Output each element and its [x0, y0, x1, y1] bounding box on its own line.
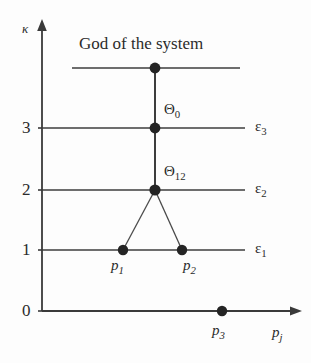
- epsilon-3-sub: 3: [261, 125, 266, 137]
- y-axis-label: κ: [22, 22, 28, 35]
- p3-base: p: [212, 322, 220, 338]
- y-tick-0: 0: [22, 302, 31, 319]
- p1-base: p: [111, 257, 119, 273]
- p2-sub: 2: [191, 264, 196, 276]
- edge-theta12-p1: [123, 190, 155, 250]
- theta-12-sub: 12: [175, 170, 186, 182]
- level-label-epsilon-2: ε2: [255, 181, 267, 199]
- node-p1: [118, 245, 128, 255]
- node-label-p1: p1: [111, 258, 124, 276]
- theta-0-sub: 0: [175, 108, 180, 120]
- epsilon-1-sub: 1: [261, 247, 266, 259]
- y-axis: [37, 19, 47, 311]
- level-label-epsilon-1: ε1: [255, 241, 267, 259]
- p2-base: p: [183, 257, 191, 273]
- y-tick-2: 2: [22, 181, 31, 198]
- x-axis-label: pj: [272, 325, 283, 343]
- p1-sub: 1: [119, 264, 124, 276]
- node-god: [150, 63, 161, 74]
- node-label-p3: p3: [212, 323, 225, 341]
- node-p2: [177, 245, 187, 255]
- edge-theta12-p2: [155, 190, 182, 250]
- node-label-theta-0: Θ0: [164, 102, 180, 120]
- theta-0-base: Θ: [164, 101, 175, 117]
- diagram-figure: κ pj God of the system 3 2 1 0 ε3 ε2 ε1 …: [0, 0, 311, 363]
- x-axis: [42, 306, 302, 315]
- epsilon-2-sub: 2: [261, 187, 266, 199]
- x-axis-label-base: p: [272, 324, 280, 340]
- p3-sub: 3: [220, 329, 225, 341]
- y-tick-1: 1: [22, 241, 31, 258]
- node-p3: [217, 306, 227, 316]
- node-theta-0: [150, 123, 161, 134]
- y-tick-3: 3: [22, 119, 31, 136]
- x-axis-label-sub: j: [280, 331, 283, 343]
- node-theta-12: [149, 184, 160, 195]
- level-label-epsilon-3: ε3: [255, 119, 267, 137]
- theta-12-base: Θ: [164, 163, 175, 179]
- page-title: God of the system: [79, 35, 203, 52]
- node-label-p2: p2: [183, 258, 196, 276]
- node-label-theta-12: Θ12: [164, 164, 186, 182]
